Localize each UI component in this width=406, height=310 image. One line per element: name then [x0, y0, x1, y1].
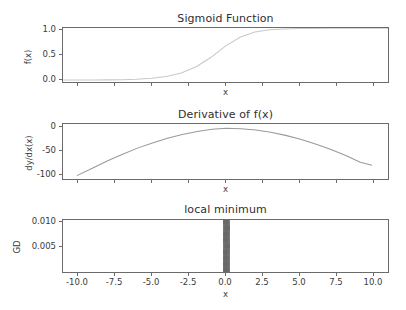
xtick-label: 10.0 [364, 277, 383, 287]
xtick-mark [151, 273, 152, 276]
xtick-mark [77, 180, 78, 183]
xtick-mark [373, 180, 374, 183]
subplot-1-axes [62, 27, 389, 83]
subplot-3-xlabel: x [62, 289, 389, 299]
xtick-mark [188, 273, 189, 276]
xtick-label: 0.0 [218, 277, 232, 287]
xtick-mark [299, 180, 300, 183]
xtick-label: 2.5 [255, 277, 269, 287]
subplot-derivative: Derivative of f(x) dy/dx(x) 0 -50 -100 [0, 100, 406, 203]
xtick-mark [77, 83, 78, 86]
ytick-label: 1.0 [28, 24, 56, 34]
xtick-mark [188, 83, 189, 86]
subplot-3-axes [62, 219, 389, 273]
ytick-label: 0 [24, 121, 56, 131]
xtick-mark [373, 273, 374, 276]
xtick-mark [299, 83, 300, 86]
xtick-label: -2.5 [180, 277, 197, 287]
subplot-2-xlabel: x [62, 184, 389, 194]
ytick-label: 0.5 [28, 49, 56, 59]
xtick-mark [225, 83, 226, 86]
ytick-label: -100 [24, 169, 56, 179]
xtick-mark [188, 180, 189, 183]
xtick-mark [262, 83, 263, 86]
xtick-mark [262, 273, 263, 276]
xtick-mark [151, 83, 152, 86]
xtick-mark [151, 180, 152, 183]
xtick-mark [373, 83, 374, 86]
xtick-mark [114, 273, 115, 276]
ytick-label: 0.0 [28, 74, 56, 84]
xtick-label: 5.0 [292, 277, 306, 287]
xtick-label: 7.5 [329, 277, 343, 287]
xtick-label: -7.5 [106, 277, 123, 287]
xtick-label: -5.0 [143, 277, 160, 287]
xtick-mark [262, 180, 263, 183]
xtick-mark [299, 273, 300, 276]
xtick-mark [225, 273, 226, 276]
xtick-mark [114, 83, 115, 86]
subplot-sigmoid-function: Sigmoid Function f(x) 1.0 0.5 0.0 [0, 0, 406, 103]
matplotlib-figure: Sigmoid Function f(x) 1.0 0.5 0.0 [0, 0, 406, 310]
xtick-mark [336, 83, 337, 86]
subplot-3-title: local minimum [62, 203, 389, 216]
subplot-local-minimum: local minimum GD 0.010 0.005 [0, 198, 406, 310]
scatter-point [223, 267, 229, 272]
subplot-2-title: Derivative of f(x) [62, 108, 389, 121]
sigmoid-curve [63, 28, 388, 82]
subplot-1-xlabel: x [62, 87, 389, 97]
subplot-2-axes [62, 123, 389, 180]
subplot-1-title: Sigmoid Function [62, 12, 389, 25]
xtick-label: -10.0 [66, 277, 88, 287]
xtick-mark [225, 180, 226, 183]
ytick-label: 0.005 [16, 241, 56, 251]
xtick-mark [77, 273, 78, 276]
xtick-mark [336, 273, 337, 276]
derivative-curve [63, 124, 388, 179]
ytick-label: -50 [24, 145, 56, 155]
xtick-mark [336, 180, 337, 183]
ytick-label: 0.010 [16, 216, 56, 226]
xtick-mark [114, 180, 115, 183]
